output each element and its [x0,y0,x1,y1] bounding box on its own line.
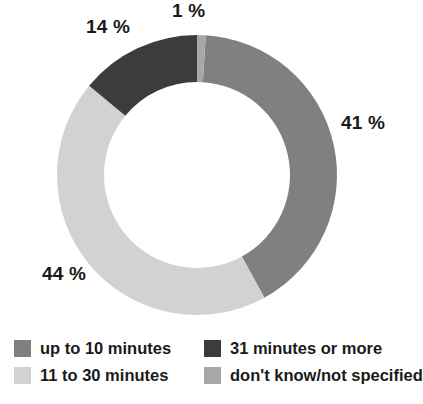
legend-item-31-minutes-or-more[interactable]: 31 minutes or more [204,340,414,357]
legend-item-label: 11 to 30 minutes [40,367,168,384]
legend-swatch-icon [204,340,221,357]
donut-slice[interactable] [203,35,337,297]
legend-swatch-icon [204,367,221,384]
legend-item-label: up to 10 minutes [40,340,171,357]
legend-swatch-icon [14,340,31,357]
legend-item-11-to-30-minutes[interactable]: 11 to 30 minutes [14,367,204,384]
slice-value-label-up-to-10-minutes: 41 % [341,113,385,132]
slice-value-label-11-to-30-minutes: 44 % [42,264,86,283]
chart-plot-area: 41 % 44 % 14 % 1 % [0,0,419,322]
donut-slice-group [57,35,337,315]
slice-value-label-dont-know-not-specified: 1 % [172,1,205,20]
slice-value-label-31-minutes-or-more: 14 % [86,17,130,36]
legend-item-up-to-10-minutes[interactable]: up to 10 minutes [14,340,204,357]
donut-slice[interactable] [57,86,264,315]
chart-legend: up to 10 minutes 31 minutes or more 11 t… [14,335,414,389]
legend-item-dont-know-not-specified[interactable]: don't know/not specified [204,367,414,384]
legend-swatch-icon [14,367,31,384]
legend-item-label: 31 minutes or more [230,340,382,357]
footer-source-artifact [10,396,300,403]
legend-item-label: don't know/not specified [230,367,423,384]
